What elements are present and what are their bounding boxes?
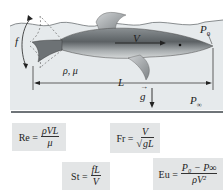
- ambient-pressure-label: P∞: [190, 95, 202, 109]
- dolphin-diagram: f V P0 ρ, μ L →g P∞: [0, 0, 223, 113]
- strouhal-numerator: fL: [91, 165, 101, 177]
- euler-numerator: P₀ − P∞: [181, 163, 218, 175]
- euler-fraction: P₀ − P∞ ρV²: [181, 163, 218, 186]
- strouhal-number-formula: St = fL V: [62, 162, 110, 190]
- euler-denominator: ρV²: [192, 174, 206, 185]
- reynolds-lhs: Re =: [19, 132, 38, 143]
- euler-number-formula: Eu = P₀ − P∞ ρV²: [153, 158, 223, 190]
- froude-fraction: V √gL: [136, 127, 153, 150]
- strouhal-fraction: fL V: [91, 165, 101, 188]
- reynolds-denominator: μ: [48, 137, 53, 148]
- reynolds-numerator: ρVL: [41, 126, 59, 138]
- froude-number-formula: Fr = V √gL: [110, 123, 160, 153]
- froude-denominator: √gL: [136, 138, 153, 149]
- surface-pressure-label: P0: [200, 24, 210, 38]
- reynolds-fraction: ρVL μ: [41, 126, 59, 149]
- length-label: L: [118, 77, 124, 88]
- strouhal-lhs: St =: [71, 171, 87, 182]
- gravity-label: →g: [140, 91, 146, 102]
- froude-lhs: Fr =: [116, 133, 133, 144]
- eye: [179, 44, 182, 47]
- strouhal-denominator: V: [93, 176, 99, 187]
- velocity-label: V: [133, 33, 140, 44]
- reynolds-number-formula: Re = ρVL μ: [12, 123, 66, 151]
- euler-lhs: Eu =: [159, 169, 178, 180]
- frequency-label: f: [15, 36, 18, 47]
- fluid-properties-label: ρ, μ: [63, 66, 78, 76]
- divider-rule: [11, 111, 223, 113]
